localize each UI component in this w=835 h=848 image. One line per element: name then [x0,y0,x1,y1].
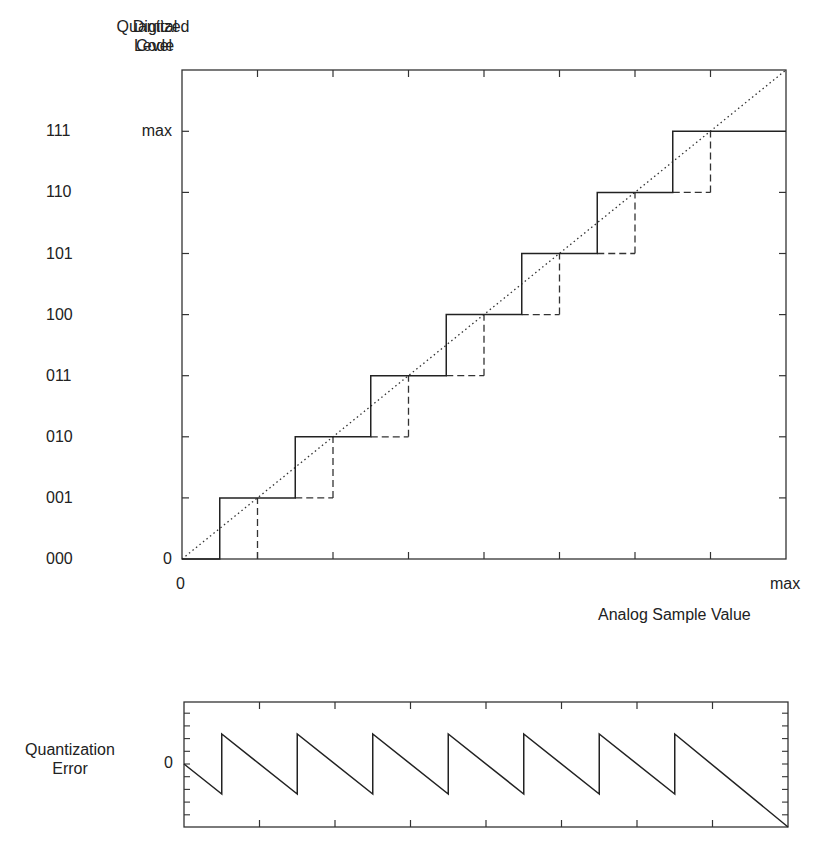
quantization-error-plot [184,702,788,827]
error-sawtooth [184,734,788,827]
rounding-staircase [182,131,786,559]
transfer-characteristic-plot [182,70,786,559]
quantization-diagram [0,0,835,848]
